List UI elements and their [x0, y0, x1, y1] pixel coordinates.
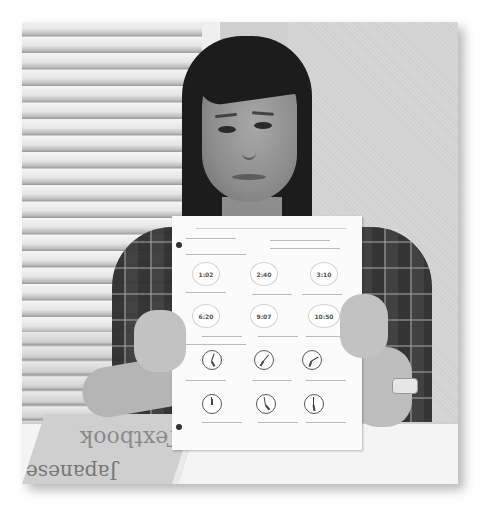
left-hand — [134, 310, 186, 372]
mouth — [232, 174, 266, 180]
section3-instruction-line — [186, 344, 246, 345]
clock-face — [254, 350, 274, 370]
time-bubble: 10:50 — [308, 304, 340, 328]
answer-line — [252, 380, 292, 381]
answer-line — [252, 294, 292, 295]
answer-line — [186, 292, 226, 293]
answer-line — [258, 336, 298, 337]
right-hand — [340, 294, 388, 358]
answer-line — [202, 422, 242, 423]
time-bubble: 6:20 — [192, 304, 220, 328]
time-bubble: 3:10 — [310, 262, 338, 286]
section1-instruction-line — [186, 254, 246, 255]
clock-face — [302, 350, 322, 370]
title-line — [186, 238, 236, 239]
punch-hole — [176, 242, 182, 248]
time-bubble: 1:02 — [192, 262, 220, 286]
answer-line — [306, 380, 346, 381]
wristwatch — [392, 378, 418, 394]
answer-line — [258, 422, 298, 423]
textbook-title: Textbook — [80, 426, 181, 451]
clock-face — [256, 394, 276, 414]
header-text-line — [196, 228, 346, 229]
answer-line — [202, 336, 242, 337]
class-field-line — [270, 248, 340, 249]
photo: Textbook Japanese 1:02 2:40 3:10 6:20 9:… — [22, 22, 458, 484]
time-bubble: 9:07 — [250, 304, 278, 328]
clock-face — [304, 394, 324, 414]
textbook-subtitle: Japanese — [26, 460, 117, 484]
clock-face — [202, 350, 222, 370]
nose — [242, 140, 256, 160]
worksheet: 1:02 2:40 3:10 6:20 9:07 10:50 — [172, 216, 362, 450]
answer-line — [186, 380, 226, 381]
punch-hole — [176, 424, 182, 430]
right-eye — [254, 122, 272, 129]
left-eye — [218, 126, 236, 133]
clock-face — [202, 394, 222, 414]
time-bubble: 2:40 — [250, 262, 278, 286]
name-field-line — [270, 240, 330, 241]
answer-line — [306, 422, 346, 423]
answer-line — [302, 294, 342, 295]
